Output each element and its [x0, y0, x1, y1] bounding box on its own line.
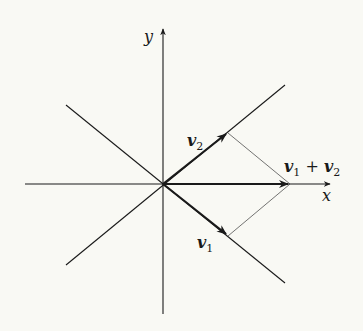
vector-diagram: y x v2 v1 v1 + v2 — [0, 0, 363, 331]
vector-v1 — [163, 184, 226, 234]
v2-label: v2 — [187, 131, 203, 153]
parallelogram-edge-upper — [228, 133, 290, 184]
x-axis-label: x — [322, 186, 331, 205]
v1-label: v1 — [197, 233, 213, 255]
parallelogram-edge-lower — [228, 184, 290, 236]
sum-label: v1 + v2 — [284, 157, 340, 179]
y-axis-label: y — [143, 27, 154, 46]
